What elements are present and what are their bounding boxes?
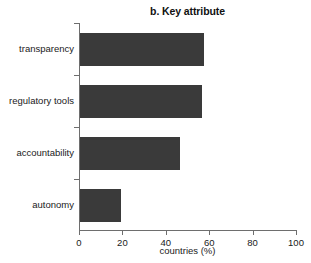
bar	[80, 189, 121, 222]
y-axis-label: autonomy	[32, 199, 74, 210]
y-axis-label: accountability	[16, 147, 74, 158]
y-axis-label: transparency	[19, 43, 74, 54]
x-axis-title: countries (%)	[79, 245, 296, 256]
y-axis-category-labels: transparencyregulatory toolsaccountabili…	[0, 23, 74, 231]
x-axis-tick	[79, 230, 80, 235]
x-axis-line	[79, 230, 296, 231]
x-axis-tick	[296, 230, 297, 235]
y-axis-tick	[74, 179, 79, 180]
x-axis-tick	[166, 230, 167, 235]
y-axis-label: regulatory tools	[9, 95, 74, 106]
x-axis-tick	[253, 230, 254, 235]
bar	[80, 137, 180, 170]
y-axis-tick	[74, 127, 79, 128]
bar-chart: b. Key attribute transparencyregulatory …	[0, 0, 311, 263]
x-axis-tick	[122, 230, 123, 235]
bar	[80, 33, 204, 66]
y-axis-tick	[74, 75, 79, 76]
plot-area: 020406080100	[79, 23, 296, 231]
bar	[80, 85, 202, 118]
chart-title: b. Key attribute	[79, 5, 296, 17]
y-axis-tick	[74, 23, 79, 24]
x-axis-tick	[209, 230, 210, 235]
